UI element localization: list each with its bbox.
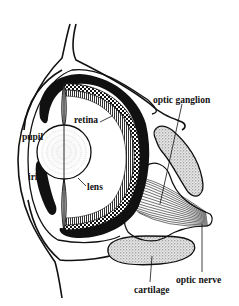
nerve-fiber (139, 213, 208, 226)
label-optic-ganglion: optic ganglion (153, 95, 211, 105)
cartilage-upper (154, 126, 203, 196)
label-lens: lens (87, 182, 103, 192)
eye-diagram: pupil retina iris lens optic ganglion op… (0, 0, 239, 306)
label-pupil: pupil (22, 132, 43, 142)
label-iris: iris (28, 172, 41, 182)
lens (37, 125, 91, 179)
label-optic-nerve: optic nerve (176, 275, 221, 285)
label-retina: retina (74, 115, 98, 125)
label-cartilage: cartilage (134, 285, 169, 295)
